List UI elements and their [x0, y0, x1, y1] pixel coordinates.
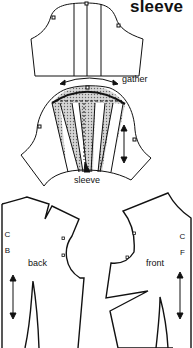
back-label: back — [28, 258, 47, 268]
front-label: front — [146, 258, 164, 268]
spread-sleeve-piece — [21, 86, 151, 186]
pattern-diagram — [0, 0, 193, 348]
gather-label: gather — [122, 74, 148, 84]
front-grainline-arrow-icon — [177, 272, 183, 319]
grainline-arrow-icon — [121, 125, 127, 163]
center-back-label: C B — [3, 230, 12, 254]
front-bodice-piece — [106, 193, 191, 348]
gather-arrow-icon — [60, 78, 118, 85]
center-front-label: C F — [178, 232, 187, 256]
back-grainline-arrow-icon — [10, 275, 16, 319]
back-bodice-piece — [2, 197, 84, 348]
sleeve-label: sleeve — [74, 175, 100, 185]
original-sleeve-piece — [31, 2, 143, 76]
